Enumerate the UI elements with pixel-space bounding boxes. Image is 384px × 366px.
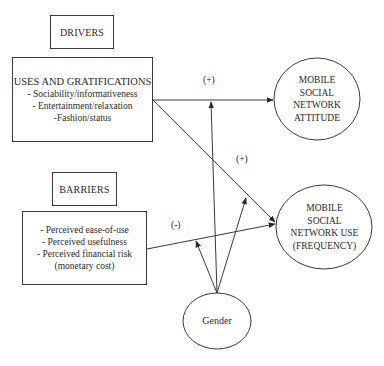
arrow-gender-to-drivers-attitude-path	[211, 102, 217, 293]
barriers-item: - Perceived ease-of-use	[40, 224, 129, 236]
use-line: MOBILE	[306, 202, 342, 215]
drivers-header-box: DRIVERS	[50, 15, 114, 49]
use-line: (FREQUENCY)	[293, 240, 356, 253]
drivers-item: -Fashion/status	[54, 112, 112, 124]
use-line: NETWORK USE	[291, 227, 359, 240]
arrow-barriers-to-use	[147, 224, 275, 249]
drivers-list-box: USES AND GRATIFICATIONS - Sociability/in…	[12, 57, 153, 142]
drivers-header-label: DRIVERS	[60, 27, 104, 38]
barriers-header-box: BARRIERS	[52, 172, 117, 206]
drivers-item: - Entertainment/relaxation	[33, 100, 133, 112]
gender-label: Gender	[202, 315, 231, 328]
gender-node: Gender	[183, 293, 251, 349]
arrow-gender-to-barriers-use-path	[196, 241, 217, 293]
barriers-item: - Perceived usefulness	[42, 236, 127, 248]
attitude-node: MOBILE SOCIAL NETWORK ATTITUDE	[274, 58, 360, 140]
sign-drivers-attitude: (+)	[203, 75, 215, 85]
barriers-item: (monetary cost)	[55, 260, 115, 272]
use-node: MOBILE SOCIAL NETWORK USE (FREQUENCY)	[276, 185, 373, 269]
attitude-line: MOBILE	[299, 74, 335, 87]
arrow-gender-to-drivers-use-path	[217, 198, 246, 293]
drivers-item: - Sociability/informativeness	[27, 88, 137, 100]
attitude-line: ATTITUDE	[294, 112, 340, 125]
diagram-canvas: DRIVERS USES AND GRATIFICATIONS - Sociab…	[0, 0, 384, 366]
sign-drivers-use: (+)	[236, 154, 248, 164]
sign-barriers-use: (-)	[171, 220, 181, 230]
barriers-item: - Perceived financial risk	[37, 248, 132, 260]
attitude-line: SOCIAL	[300, 87, 334, 100]
use-line: SOCIAL	[307, 215, 341, 228]
barriers-header-label: BARRIERS	[59, 184, 110, 195]
attitude-line: NETWORK	[293, 99, 341, 112]
drivers-list-title: USES AND GRATIFICATIONS	[14, 75, 152, 88]
barriers-list-box: - Perceived ease-of-use - Perceived usef…	[22, 211, 147, 285]
